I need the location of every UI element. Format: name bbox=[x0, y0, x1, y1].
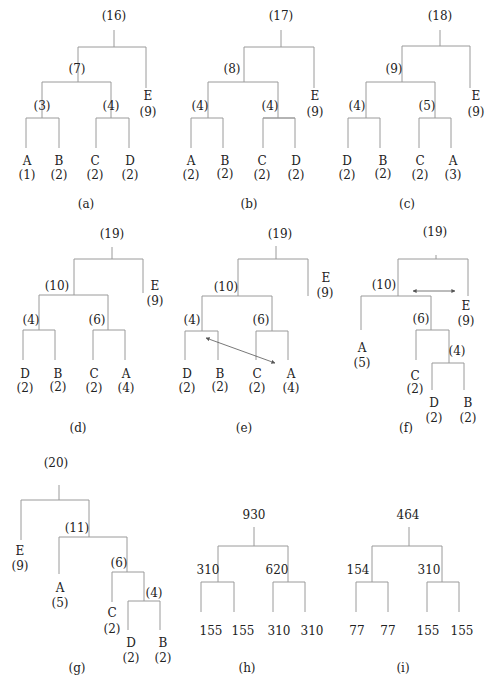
tree-diagram-canvas: (16)(7)(3)(4)E(9)A(1)B(2)C(2)D(2)(a)(17)… bbox=[0, 0, 496, 687]
node-label: (4) bbox=[103, 99, 120, 113]
node-label: (2) bbox=[407, 382, 424, 396]
node-label: (16) bbox=[102, 9, 127, 23]
node-label: (3) bbox=[34, 99, 51, 113]
node-label: (2) bbox=[212, 380, 229, 394]
node-label: (8) bbox=[224, 62, 241, 76]
node-label: (2) bbox=[375, 167, 392, 181]
node-label: (4) bbox=[146, 586, 163, 600]
node-label: C bbox=[252, 367, 261, 381]
node-label: E bbox=[472, 89, 481, 103]
node-label: (1) bbox=[19, 168, 36, 182]
node-label: D bbox=[20, 367, 30, 381]
node-label: A bbox=[357, 341, 367, 355]
node-label: (4) bbox=[118, 381, 135, 395]
node-label: (9) bbox=[307, 105, 324, 119]
node-label: (4) bbox=[192, 99, 209, 113]
node-label: B bbox=[464, 396, 473, 410]
node-label: (9) bbox=[458, 314, 475, 328]
node-label: A bbox=[286, 367, 296, 381]
node-label: (11) bbox=[65, 521, 90, 535]
figure-caption: (i) bbox=[396, 661, 409, 675]
node-label: (4) bbox=[23, 313, 40, 327]
node-label: E bbox=[311, 89, 320, 103]
node-label: B bbox=[379, 154, 388, 168]
tree-figure-a: (16)(7)(3)(4)E(9)A(1)B(2)C(2)D(2)(a) bbox=[19, 9, 157, 211]
node-label: C bbox=[89, 367, 98, 381]
node-label: (6) bbox=[253, 313, 270, 327]
node-label: (18) bbox=[428, 9, 453, 23]
node-label: (3) bbox=[445, 168, 462, 182]
node-label: E bbox=[462, 299, 471, 313]
node-label: (5) bbox=[52, 596, 69, 610]
tree-figure-b: (17)(8)(4)(4)E(9)A(2)B(2)C(2)D(2)(b) bbox=[183, 9, 324, 211]
node-label: C bbox=[410, 369, 419, 383]
node-label: (4) bbox=[262, 99, 279, 113]
node-label: 155 bbox=[200, 624, 223, 638]
figure-caption: (f) bbox=[399, 421, 413, 435]
tree-figure-c: (18)(9)(4)(5)E(9)D(2)B(2)C(2)A(3)(c) bbox=[339, 9, 485, 211]
node-label: (4) bbox=[283, 381, 300, 395]
node-label: B bbox=[159, 636, 168, 650]
node-label: (2) bbox=[179, 381, 196, 395]
figure-caption: (e) bbox=[236, 421, 252, 435]
node-label: (2) bbox=[254, 168, 271, 182]
node-label: (19) bbox=[100, 227, 125, 241]
node-label: (9) bbox=[468, 105, 485, 119]
node-label: A bbox=[121, 367, 131, 381]
node-label: (19) bbox=[423, 225, 448, 239]
node-label: (2) bbox=[339, 168, 356, 182]
node-label: (19) bbox=[268, 227, 293, 241]
node-label: (9) bbox=[317, 286, 334, 300]
figure-caption: (a) bbox=[78, 197, 95, 211]
node-label: E bbox=[16, 544, 25, 558]
node-label: (4) bbox=[349, 99, 366, 113]
node-label: B bbox=[54, 367, 63, 381]
node-label: (2) bbox=[249, 381, 266, 395]
node-label: (6) bbox=[89, 313, 106, 327]
node-label: D bbox=[342, 154, 352, 168]
node-label: B bbox=[55, 154, 64, 168]
tree-figure-h: 930310620155155310310(h) bbox=[197, 508, 324, 675]
node-label: D bbox=[125, 154, 135, 168]
node-label: C bbox=[107, 606, 116, 620]
node-label: 310 bbox=[268, 624, 291, 638]
node-label: (2) bbox=[426, 411, 443, 425]
node-label: (7) bbox=[69, 62, 86, 76]
node-label: B bbox=[216, 367, 225, 381]
node-label: (10) bbox=[214, 280, 239, 294]
node-label: (20) bbox=[44, 456, 69, 470]
node-label: (17) bbox=[269, 9, 294, 23]
node-label: (5) bbox=[354, 356, 371, 370]
figure-caption: (g) bbox=[68, 661, 85, 675]
tree-figure-f: (19)(10)(6)(4)E(9)A(5)C(2)D(2)B(2)(f) bbox=[354, 225, 477, 435]
node-label: E bbox=[144, 89, 153, 103]
node-label: 155 bbox=[232, 624, 255, 638]
node-label: (2) bbox=[50, 380, 67, 394]
figure-caption: (h) bbox=[238, 661, 255, 675]
node-label: D bbox=[126, 636, 136, 650]
tree-figure-d: (19)(10)(4)(6)E(9)D(2)B(2)C(2)A(4)(d) bbox=[17, 227, 164, 435]
figure-caption: (d) bbox=[69, 421, 86, 435]
tree-figure-e: (19)(10)(4)(6)E(9)D(2)B(2)C(2)A(4)(e) bbox=[179, 227, 334, 435]
node-label: (9) bbox=[140, 105, 157, 119]
node-label: C bbox=[415, 154, 424, 168]
node-label: 930 bbox=[243, 508, 266, 522]
node-label: (10) bbox=[372, 278, 397, 292]
tree-figure-g: (20)(11)(6)(4)E(9)A(5)C(2)D(2)B(2)(g) bbox=[12, 456, 172, 675]
node-label: (2) bbox=[155, 651, 172, 665]
node-label: 77 bbox=[349, 624, 364, 638]
node-label: (4) bbox=[184, 313, 201, 327]
node-label: C bbox=[90, 154, 99, 168]
tree-figure-i: 4643101547777155155(i) bbox=[347, 508, 474, 675]
node-label: 464 bbox=[397, 508, 420, 522]
node-label: A bbox=[22, 154, 32, 168]
node-label: E bbox=[151, 279, 160, 293]
figure-caption: (b) bbox=[240, 197, 257, 211]
node-label: 310 bbox=[301, 624, 324, 638]
node-label: E bbox=[322, 271, 331, 285]
node-label: (2) bbox=[122, 168, 139, 182]
node-label: A bbox=[448, 154, 458, 168]
node-label: (10) bbox=[45, 279, 70, 293]
swap-arrow-icon bbox=[206, 338, 275, 363]
node-label: (2) bbox=[412, 168, 429, 182]
